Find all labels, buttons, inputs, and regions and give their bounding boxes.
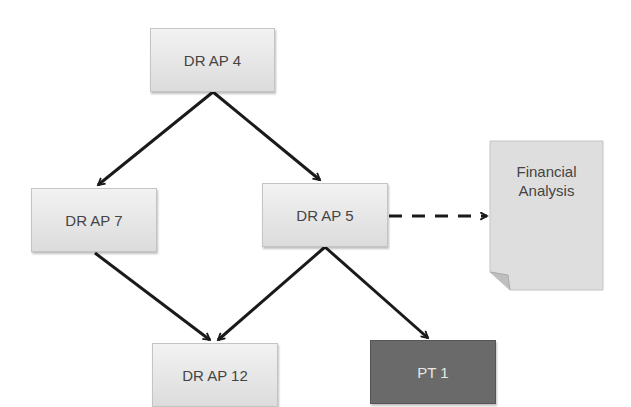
edge-ap4-to-ap5 xyxy=(213,92,320,180)
edge-ap7-to-ap12 xyxy=(95,253,210,340)
node-dr-ap-5: DR AP 5 xyxy=(262,183,388,247)
node-label: DR AP 12 xyxy=(182,367,248,384)
node-label-line2: Analysis xyxy=(519,181,575,200)
node-label: DR AP 4 xyxy=(184,52,241,69)
node-pt-1: PT 1 xyxy=(370,340,496,404)
node-financial-analysis: Financial Analysis xyxy=(490,141,603,221)
node-label: DR AP 7 xyxy=(65,212,122,229)
edge-ap5-to-pt1 xyxy=(325,247,428,338)
node-dr-ap-7: DR AP 7 xyxy=(31,188,157,252)
edge-ap5-to-ap12 xyxy=(218,247,325,340)
node-dr-ap-12: DR AP 12 xyxy=(152,343,278,407)
edge-ap4-to-ap7 xyxy=(98,92,213,185)
node-label: DR AP 5 xyxy=(296,207,353,224)
node-label-line1: Financial xyxy=(516,162,576,181)
node-dr-ap-4: DR AP 4 xyxy=(150,28,275,92)
node-label: PT 1 xyxy=(417,364,448,381)
